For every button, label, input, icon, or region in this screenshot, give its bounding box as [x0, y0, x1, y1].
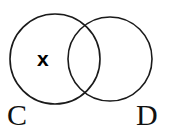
- set-circle-d: [68, 17, 152, 101]
- set-label-c: C: [7, 100, 27, 130]
- set-circle-c: [10, 14, 100, 104]
- set-label-d: D: [136, 100, 158, 130]
- element-marker-x: x: [37, 48, 49, 69]
- venn-diagram-figure: C D x: [0, 0, 169, 134]
